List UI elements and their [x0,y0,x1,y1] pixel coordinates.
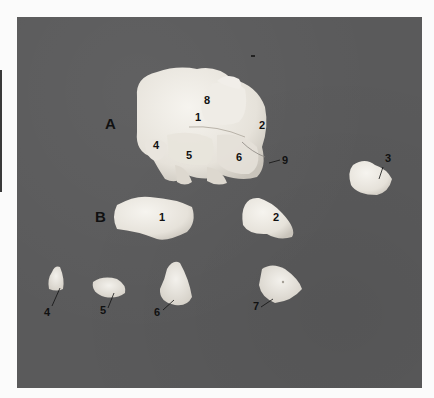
label-a-9: 9 [282,155,288,166]
bone-b2 [242,198,293,239]
bone-3 [349,161,392,195]
dust-speck [251,55,255,57]
label-a-1: 1 [195,112,201,123]
panel-label-b: B [95,209,106,224]
label-a-4: 4 [153,140,159,151]
panel-label-a: A [105,116,116,131]
label-b-1: 1 [159,212,165,223]
bones-illustration [17,17,422,388]
label-a-6: 6 [236,152,242,163]
adjacent-page-edge [0,70,2,192]
label-b-4: 4 [44,307,50,318]
cluster-a [137,68,267,185]
bone-b5 [93,278,126,298]
label-a-8: 8 [204,95,210,106]
label-b-6: 6 [154,307,160,318]
bone-b1 [114,197,194,240]
bone-b7 [259,266,302,304]
bone-b4 [48,267,63,291]
label-3: 3 [385,153,391,164]
label-a-5: 5 [186,150,192,161]
label-b-2: 2 [273,212,279,223]
bone-b6 [160,262,192,305]
label-a-2: 2 [259,120,265,131]
specimen-photograph: A 8 1 2 4 5 6 9 3 B 1 2 4 5 6 7 [17,17,422,388]
label-b-7: 7 [253,301,259,312]
label-b-5: 5 [100,305,106,316]
